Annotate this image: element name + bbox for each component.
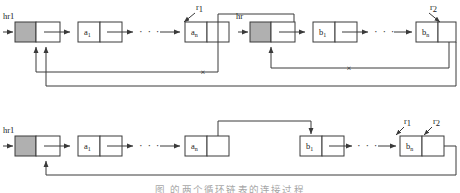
panel-before-merge: hr1 a1 · · · an [3, 2, 456, 86]
cut-mark-list-a-top: × [201, 67, 206, 77]
linked-list-diagram: hr1 a1 · · · an [0, 0, 460, 193]
pointer-arrow-r1-bottom [396, 127, 404, 135]
pointer-label-r1-bottom: r1 [404, 116, 411, 128]
pointer-label-r2-bottom: r2 [433, 116, 440, 128]
ellipsis-list-b-bottom: · · · [357, 139, 379, 151]
ellipsis-list-a-top: · · · [139, 25, 161, 37]
ellipsis-list-b-top: · · · [374, 25, 396, 37]
pointer-arrow-r2-bottom [424, 127, 432, 135]
pointer-label-r1-top: r1 [196, 2, 203, 14]
node-an-top: an [185, 22, 229, 42]
link-an-to-b1-bottom [218, 121, 311, 136]
node-bn-top: bn [416, 22, 456, 42]
ellipsis-list-a-bottom: · · · [139, 139, 161, 151]
panel-after-merge: hr1 a1 · · · an [3, 116, 456, 175]
head-label-hr1-top: hr1 [3, 11, 14, 21]
head-label-hr1-bottom: hr1 [3, 125, 14, 135]
cut-mark-list-b-top: × [347, 63, 352, 73]
node-an-bottom: an [185, 136, 229, 156]
pointer-arrow-r1-top [184, 13, 195, 22]
figure-caption: 图 的两个循环链表的连接过程 [0, 183, 460, 193]
loop-bn-to-hr-top [271, 42, 449, 68]
head-label-hr-top: hr [236, 11, 243, 21]
node-bn-bottom: bn [400, 136, 444, 156]
loop-an-to-hr1-top [36, 42, 218, 72]
pointer-arrow-r2-top [429, 13, 440, 22]
figure-canvas: hr1 a1 · · · an [0, 0, 460, 193]
loop-bn-to-hr1-top [46, 42, 456, 86]
pointer-label-r2-top: r2 [430, 2, 437, 14]
